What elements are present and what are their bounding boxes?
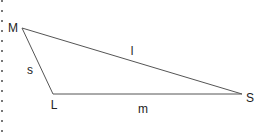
- vertex-label-s: S: [246, 92, 254, 104]
- side-label-l: l: [131, 45, 134, 57]
- triangle-diagram: [0, 0, 263, 132]
- vertex-label-m: M: [8, 22, 18, 34]
- side-label-m: m: [138, 103, 148, 115]
- side-s: [22, 28, 53, 94]
- side-label-s: s: [27, 64, 33, 76]
- side-l: [22, 28, 242, 94]
- vertex-label-l: L: [51, 99, 58, 111]
